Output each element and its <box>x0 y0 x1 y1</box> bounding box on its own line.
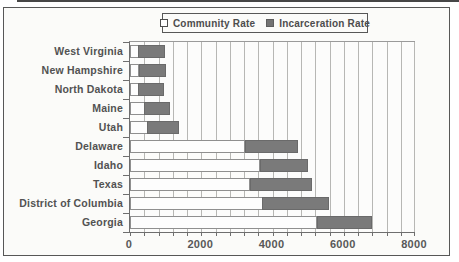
bar-segment-incarceration <box>139 64 166 77</box>
chart-legend: Community Rate Incarceration Rate <box>162 13 368 33</box>
bar-segment-incarceration <box>138 83 164 96</box>
x-axis-labels: 02000400060008000 <box>129 238 414 252</box>
x-axis-tick <box>414 232 415 236</box>
x-axis-tick <box>315 232 316 236</box>
gridline <box>344 42 345 232</box>
x-axis-tick <box>187 232 188 236</box>
x-axis-tick <box>287 232 288 236</box>
x-axis-tick <box>130 232 131 236</box>
bar-segment-incarceration <box>147 121 179 134</box>
y-axis-tick <box>123 42 130 43</box>
bar-segment-incarceration <box>250 178 312 191</box>
x-axis-tick <box>358 232 359 236</box>
category-label: Idaho <box>6 155 123 174</box>
x-axis-tick <box>273 232 274 236</box>
x-axis-tick <box>216 232 217 236</box>
bar-segment-community <box>130 121 148 134</box>
plot-area <box>129 41 415 233</box>
category-label: Texas <box>6 174 123 193</box>
bar-segment-incarceration <box>262 197 329 210</box>
bar-segment-community <box>130 102 145 115</box>
gridline <box>414 42 415 232</box>
y-axis-tick <box>123 194 130 195</box>
bar-segment-incarceration <box>144 102 170 115</box>
bar-segment-community <box>130 216 317 229</box>
y-axis-tick <box>123 99 130 100</box>
y-axis-labels: West VirginiaNew HampshireNorth DakotaMa… <box>6 41 123 231</box>
community-rate-legend-swatch <box>160 19 168 27</box>
bar-segment-community <box>130 159 260 172</box>
bar-segment-incarceration <box>138 45 165 58</box>
x-axis-tick <box>258 232 259 236</box>
y-axis-tick <box>123 61 130 62</box>
bar-segment-community <box>130 197 263 210</box>
incarceration-rate-legend-label: Incarceration Rate <box>279 18 370 29</box>
x-tick-label: 2000 <box>170 238 230 250</box>
category-label: Maine <box>6 98 123 117</box>
figure-frame: Community Rate Incarceration Rate West V… <box>3 7 450 256</box>
x-axis-tick <box>201 232 202 236</box>
x-tick-label: 0 <box>99 238 159 250</box>
y-axis-tick <box>123 137 130 138</box>
category-label: Georgia <box>6 212 123 231</box>
gridline <box>372 42 373 232</box>
community-rate-legend-label: Community Rate <box>173 18 255 29</box>
x-axis-tick <box>159 232 160 236</box>
y-axis-tick <box>123 156 130 157</box>
x-axis-tick <box>330 232 331 236</box>
category-label: North Dakota <box>6 79 123 98</box>
category-label: New Hampshire <box>6 60 123 79</box>
category-label: West Virginia <box>6 41 123 60</box>
y-axis-tick <box>123 213 130 214</box>
x-axis-tick <box>344 232 345 236</box>
bar-segment-incarceration <box>245 140 298 153</box>
y-axis-tick <box>123 118 130 119</box>
x-axis-tick <box>372 232 373 236</box>
incarceration-rate-legend-swatch <box>266 19 274 27</box>
gridline <box>330 42 331 232</box>
gridline <box>387 42 388 232</box>
y-axis-tick <box>123 232 130 233</box>
bar-segment-incarceration <box>260 159 308 172</box>
x-axis-tick <box>144 232 145 236</box>
category-label: Utah <box>6 117 123 136</box>
x-axis-tick <box>301 232 302 236</box>
x-axis-tick <box>173 232 174 236</box>
y-axis-tick <box>123 80 130 81</box>
x-axis-tick <box>244 232 245 236</box>
gridline <box>358 42 359 232</box>
gridline <box>401 42 402 232</box>
y-axis-tick <box>123 175 130 176</box>
page: { "legend": { "items": [ { "label": "Com… <box>0 0 459 262</box>
x-axis-tick <box>401 232 402 236</box>
x-axis-tick <box>230 232 231 236</box>
category-label: District of Columbia <box>6 193 123 212</box>
x-tick-label: 4000 <box>242 238 302 250</box>
category-label: Delaware <box>6 136 123 155</box>
x-tick-label: 6000 <box>313 238 373 250</box>
page-top-rule <box>17 0 459 2</box>
x-axis-tick <box>387 232 388 236</box>
bar-segment-community <box>130 140 245 153</box>
bar-segment-community <box>130 178 250 191</box>
bar-segment-incarceration <box>317 216 372 229</box>
x-tick-label: 8000 <box>384 238 444 250</box>
